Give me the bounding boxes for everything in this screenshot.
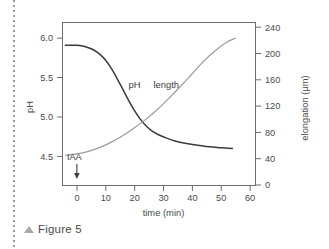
- left-axis-tick-labels: 6.0 5.5 5.0 4.5: [40, 33, 53, 161]
- left-tick-label: 5.0: [40, 112, 53, 122]
- left-tick-label: 6.0: [40, 33, 53, 43]
- left-axis-title: pH: [24, 101, 35, 113]
- x-axis-title: time (min): [143, 207, 185, 218]
- figure-5: 6.0 5.5 5.0 4.5 pH 0 40 80 120 160 200 2…: [0, 0, 329, 249]
- figure-caption: Figure 5: [24, 223, 82, 235]
- right-axis-tick-labels: 0 40 80 120 160 200 240: [265, 23, 280, 191]
- x-tick-label: 20: [130, 193, 140, 203]
- right-tick-label: 80: [265, 128, 275, 138]
- right-axis-ticks: [256, 27, 262, 185]
- series-label-ph: pH: [129, 79, 141, 90]
- right-tick-label: 120: [265, 101, 280, 111]
- figure-caption-text: Figure 5: [38, 223, 82, 235]
- series-label-length: length: [153, 79, 179, 90]
- chart-canvas: 6.0 5.5 5.0 4.5 pH 0 40 80 120 160 200 2…: [0, 0, 329, 249]
- x-tick-label: 40: [187, 193, 197, 203]
- x-tick-label: 0: [74, 193, 79, 203]
- x-tick-label: 50: [216, 193, 226, 203]
- iaa-label: IAA: [67, 152, 83, 162]
- left-tick-label: 5.5: [40, 73, 53, 83]
- left-axis-ticks: [57, 38, 63, 156]
- x-axis-tick-labels: 0 10 20 30 40 50 60: [74, 193, 255, 203]
- right-tick-label: 40: [265, 154, 275, 164]
- x-tick-label: 10: [101, 193, 111, 203]
- left-tick-label: 4.5: [40, 152, 53, 162]
- right-tick-label: 160: [265, 75, 280, 85]
- x-axis-ticks: [77, 186, 250, 192]
- x-tick-label: 60: [245, 193, 255, 203]
- right-tick-label: 0: [265, 180, 270, 190]
- x-tick-label: 30: [158, 193, 168, 203]
- right-axis-title: elongation (µm): [299, 75, 310, 140]
- plot-frame: [63, 23, 256, 186]
- triangle-up-icon: [24, 226, 34, 233]
- right-tick-label: 200: [265, 49, 280, 59]
- right-tick-label: 240: [265, 23, 280, 33]
